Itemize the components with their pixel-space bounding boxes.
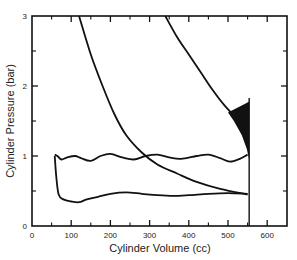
- x-axis-title: Cylinder Volume (cc): [109, 242, 210, 254]
- x-tick-label: 300: [143, 231, 157, 240]
- x-tick-label: 200: [104, 231, 118, 240]
- compression-wedge-fill: [228, 101, 249, 159]
- x-tick-label: 400: [182, 231, 196, 240]
- axis-tick-labels: 01002003004005006000123: [23, 12, 275, 240]
- y-tick-label: 0: [23, 222, 28, 231]
- x-tick-label: 600: [261, 231, 275, 240]
- y-tick-label: 3: [23, 12, 28, 21]
- series-expansion-curve-left: [79, 16, 248, 195]
- x-tick-label: 500: [221, 231, 235, 240]
- data-series: [55, 16, 249, 226]
- x-tick-label: 0: [30, 231, 35, 240]
- y-tick-label: 1: [23, 152, 28, 161]
- y-axis-title: Cylinder Pressure (bar): [4, 64, 16, 178]
- y-tick-label: 2: [23, 82, 28, 91]
- pv-diagram-chart: 01002003004005006000123 Cylinder Volume …: [0, 0, 297, 260]
- series-intake-lower: [55, 156, 248, 202]
- x-tick-label: 100: [65, 231, 79, 240]
